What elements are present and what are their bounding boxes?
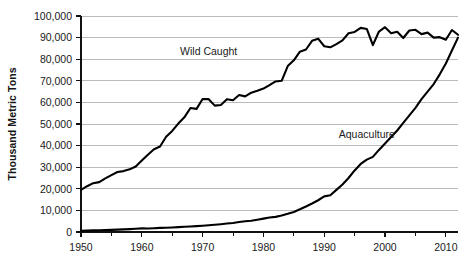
- data-series: [81, 27, 458, 230]
- x-tick-label-2000: 2000: [373, 241, 397, 253]
- series-line-aquaculture: [81, 38, 458, 231]
- gridlines: [81, 16, 458, 210]
- series-line-wild-caught: [81, 27, 458, 190]
- x-axis-ticks: 1950196019701980199020002010: [69, 232, 457, 253]
- series-label-wild-caught: Wild Caught: [180, 45, 237, 57]
- series-label-aquaculture: Aquaculture: [339, 128, 395, 140]
- y-tick-label-80000: 80,000: [40, 53, 72, 65]
- y-tick-label-30000: 30,000: [40, 161, 72, 173]
- x-tick-label-1960: 1960: [130, 241, 154, 253]
- y-tick-label-10000: 10,000: [40, 204, 72, 216]
- y-tick-label-0: 0: [66, 226, 72, 238]
- y-tick-label-60000: 60,000: [40, 96, 72, 108]
- y-axis-ticks: 010,00020,00030,00040,00050,00060,00070,…: [34, 10, 81, 238]
- x-tick-label-1990: 1990: [313, 241, 337, 253]
- x-tick-label-1980: 1980: [252, 241, 276, 253]
- y-axis-title-text: Thousand Metric Tons: [6, 67, 18, 180]
- x-tick-label-1950: 1950: [69, 241, 93, 253]
- y-axis-title: Thousand Metric Tons: [6, 67, 18, 180]
- x-tick-label-1970: 1970: [191, 241, 215, 253]
- y-tick-label-50000: 50,000: [40, 118, 72, 130]
- y-tick-label-90000: 90,000: [40, 31, 72, 43]
- fisheries-production-chart: 010,00020,00030,00040,00050,00060,00070,…: [0, 0, 465, 264]
- y-tick-label-100000: 100,000: [34, 10, 72, 22]
- y-tick-label-20000: 20,000: [40, 183, 72, 195]
- y-tick-label-70000: 70,000: [40, 75, 72, 87]
- x-tick-label-2010: 2010: [434, 241, 458, 253]
- y-tick-label-40000: 40,000: [40, 139, 72, 151]
- chart-canvas: 010,00020,00030,00040,00050,00060,00070,…: [0, 0, 465, 264]
